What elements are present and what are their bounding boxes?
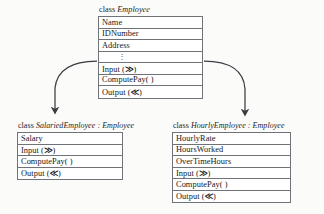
member-row[interactable]: Input (≫) — [18, 145, 122, 157]
class-keyword: class — [173, 121, 189, 130]
class-keyword: class — [99, 5, 115, 14]
member-list-salaried-employee: Salary Input (≫) ComputePay( ) Output (≪… — [17, 132, 123, 180]
member-row[interactable]: Salary — [18, 133, 122, 145]
vertical-ellipsis-icon: ⋮ — [118, 52, 126, 62]
class-box-hourly-employee[interactable]: class HourlyEmployee : Employee HourlyRa… — [172, 121, 291, 203]
member-row[interactable]: Input (≫) — [173, 168, 290, 180]
member-row[interactable]: OverTimeHours — [173, 156, 290, 168]
class-header-employee: class Employee — [98, 5, 203, 15]
member-row[interactable]: HoursWorked — [173, 145, 290, 157]
member-row[interactable]: ComputePay( ) — [18, 156, 122, 168]
inheritance-arrow-hourly — [204, 61, 245, 112]
member-row[interactable]: ComputePay( ) — [99, 75, 202, 87]
member-row[interactable]: Output (≪) — [173, 191, 290, 203]
class-header-salaried-employee: class SalariedEmployee : Employee — [17, 121, 123, 131]
class-name-hourly-employee: HourlyEmployee : Employee — [191, 121, 285, 130]
member-list-hourly-employee: HourlyRate HoursWorked OverTimeHours Inp… — [172, 132, 291, 203]
class-header-hourly-employee: class HourlyEmployee : Employee — [172, 121, 291, 131]
class-box-salaried-employee[interactable]: class SalariedEmployee : Employee Salary… — [17, 121, 123, 180]
inheritance-arrow-salaried — [55, 61, 97, 110]
member-row[interactable]: Address — [99, 40, 202, 52]
member-row[interactable]: HourlyRate — [173, 133, 290, 145]
class-name-employee: Employee — [117, 5, 150, 14]
member-row[interactable]: Input (≫) — [99, 63, 202, 75]
class-name-salaried-employee: SalariedEmployee : Employee — [36, 121, 134, 130]
member-row[interactable]: IDNumber — [99, 29, 202, 41]
class-box-employee[interactable]: class Employee Name IDNumber Address ⋮ I… — [98, 5, 203, 99]
member-row[interactable]: ComputePay( ) — [173, 179, 290, 191]
member-list-employee: Name IDNumber Address ⋮ Input (≫) Comput… — [98, 16, 203, 99]
member-row[interactable]: Output (≪) — [18, 168, 122, 180]
member-row[interactable]: Name — [99, 17, 202, 29]
member-row[interactable]: Output (≪) — [99, 86, 202, 98]
uml-class-diagram: class Employee Name IDNumber Address ⋮ I… — [0, 0, 324, 214]
class-keyword: class — [18, 121, 34, 130]
member-row-ellipsis: ⋮ — [99, 52, 202, 64]
